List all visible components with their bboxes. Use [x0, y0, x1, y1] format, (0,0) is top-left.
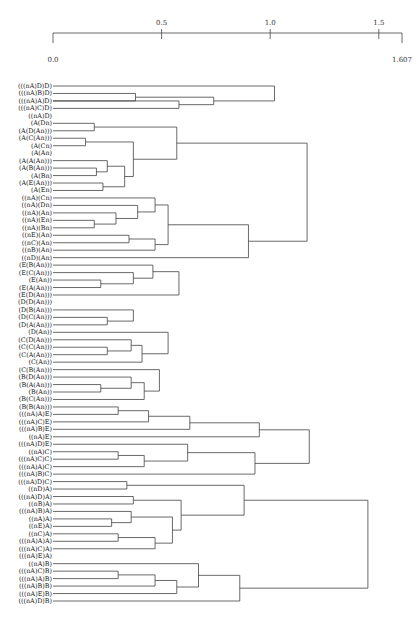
- leaf-labels: (((nA)D)D)(((nA)B)D)(((nA)A)D)(((nA)C)D)…: [18, 82, 52, 605]
- tree-branches: [53, 86, 368, 601]
- leaf-label: (((nA)D)B): [18, 597, 52, 605]
- dendrogram: (((nA)D)D)(((nA)B)D)(((nA)A)D)(((nA)C)D)…: [0, 0, 418, 622]
